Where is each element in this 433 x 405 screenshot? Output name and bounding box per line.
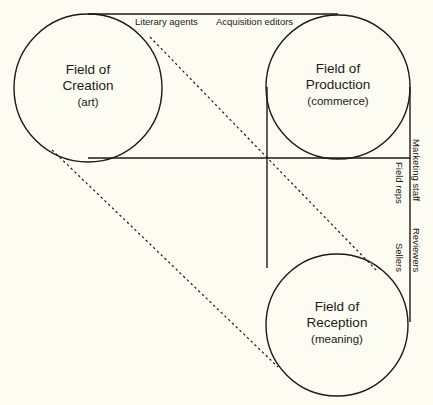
node-label-line1: Field of [278, 61, 398, 77]
node-label-qualifier: (art) [28, 95, 148, 109]
edge-label-field-reps: Field reps [394, 162, 405, 204]
edge-label-literary-agents: Literary agents [135, 16, 198, 27]
node-label-line1: Field of [277, 299, 397, 315]
node-label-field-of-creation: Field of Creation (art) [28, 62, 148, 109]
edge-label-marketing-staff: Marketing staff [411, 139, 422, 201]
node-label-qualifier: (commerce) [278, 94, 398, 108]
connector-creation-to-reception-lower [52, 150, 278, 367]
node-label-field-of-reception: Field of Reception (meaning) [277, 299, 397, 346]
diagram-root: Field of Creation (art) Field of Product… [0, 0, 433, 405]
edge-label-acquisition-editors: Acquisition editors [216, 16, 293, 27]
edge-label-sellers: Sellers [394, 243, 405, 272]
node-label-line2: Production [278, 77, 398, 93]
node-label-line2: Creation [28, 78, 148, 94]
node-label-field-of-production: Field of Production (commerce) [278, 61, 398, 108]
node-label-line1: Field of [28, 62, 148, 78]
node-label-line2: Reception [277, 315, 397, 331]
node-label-qualifier: (meaning) [277, 332, 397, 346]
edge-label-reviewers: Reviewers [411, 228, 422, 272]
